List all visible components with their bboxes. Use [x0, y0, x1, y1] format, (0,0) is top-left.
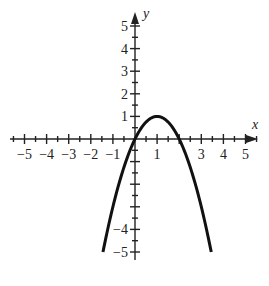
coordinate-plane: −5−4−3−2−1134554321−4−5 x y — [0, 0, 269, 286]
y-tick-label: 2 — [121, 87, 128, 102]
x-tick-label: 1 — [154, 147, 161, 162]
y-tick-label: 1 — [121, 109, 128, 124]
x-tick-label: 4 — [220, 147, 227, 162]
x-tick-label: −1 — [105, 147, 120, 162]
y-tick-label: 3 — [121, 64, 128, 79]
y-tick-label: 4 — [121, 42, 128, 57]
x-axis-label: x — [251, 117, 259, 132]
x-tick-label: 3 — [198, 147, 205, 162]
y-tick-label: −5 — [113, 245, 128, 260]
y-axis-label: y — [141, 6, 150, 21]
y-tick-label: −4 — [113, 222, 128, 237]
x-tick-label: −2 — [83, 147, 98, 162]
x-tick-label: 5 — [242, 147, 249, 162]
x-tick-label: −5 — [17, 147, 32, 162]
x-tick-label: −4 — [39, 147, 54, 162]
y-tick-label: 5 — [121, 19, 128, 34]
parabola-graph: −5−4−3−2−1134554321−4−5 x y — [0, 0, 269, 286]
x-tick-label: −3 — [61, 147, 76, 162]
